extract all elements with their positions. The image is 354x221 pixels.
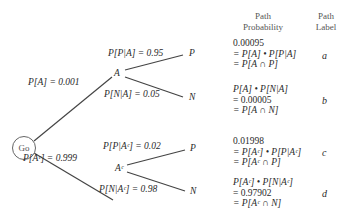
- header-path-label-line1: Path: [306, 11, 346, 22]
- prob-n-given-a: P[N|A] = 0.05: [104, 89, 160, 100]
- path-a-line3: = P[A ∩ P]: [233, 59, 296, 70]
- path-b-line3: = P[A ∩ N]: [233, 105, 288, 116]
- path-label-a: a: [322, 50, 327, 61]
- path-a-line2: = P[A] • P[P|A]: [233, 49, 296, 60]
- path-label-c: c: [322, 147, 326, 158]
- path-label-d: d: [322, 188, 327, 199]
- path-block-b: P[A] • P[N|A] = 0.00005 = P[A ∩ N]: [233, 84, 288, 116]
- path-c-line1: 0.01998: [233, 136, 301, 147]
- path-b-line2: = 0.00005: [233, 95, 288, 106]
- prob-p-given-a-complement: P[P|Aᶜ] = 0.02: [103, 141, 161, 152]
- path-c-line3: = P[Aᶜ ∩ P]: [233, 157, 301, 168]
- path-label-b: b: [322, 95, 327, 106]
- prob-n-given-a-complement: P[N|Aᶜ] = 0.98: [99, 184, 157, 195]
- tree-edges: [0, 0, 354, 221]
- node-a: A: [114, 68, 120, 79]
- header-path-label-line2: Label: [306, 22, 346, 33]
- prob-a-label: P[A] = 0.001: [28, 77, 80, 88]
- leaf-n-a-complement: N: [190, 186, 196, 197]
- path-block-a: 0.00095 = P[A] • P[P|A] = P[A ∩ P]: [233, 38, 296, 70]
- header-path-probability-line1: Path: [228, 11, 298, 22]
- header-path-probability-line2: Probability: [228, 22, 298, 33]
- prob-a-complement-label: P[Aᶜ] = 0.999: [23, 153, 77, 164]
- leaf-p-a: P: [189, 48, 195, 59]
- node-a-complement: Aᶜ: [115, 163, 123, 174]
- leaf-p-a-complement: P: [190, 143, 196, 154]
- leaf-n-a: N: [189, 92, 195, 103]
- path-c-line2: = P[Aᶜ] • P[P|Aᶜ]: [233, 147, 301, 158]
- header-path-label: Path Label: [306, 11, 346, 33]
- path-a-line1: 0.00095: [233, 38, 296, 49]
- path-d-line3: = P[Aᶜ ∩ N]: [233, 198, 293, 209]
- path-d-line1: P[Aᶜ] • P[N|Aᶜ]: [233, 177, 293, 188]
- path-d-line2: = 0.97902: [233, 188, 293, 199]
- prob-p-given-a: P[P|A] = 0.95: [108, 48, 163, 59]
- path-b-line1: P[A] • P[N|A]: [233, 84, 288, 95]
- path-block-d: P[Aᶜ] • P[N|Aᶜ] = 0.97902 = P[Aᶜ ∩ N]: [233, 177, 293, 209]
- header-path-probability: Path Probability: [228, 11, 298, 33]
- path-block-c: 0.01998 = P[Aᶜ] • P[P|Aᶜ] = P[Aᶜ ∩ P]: [233, 136, 301, 168]
